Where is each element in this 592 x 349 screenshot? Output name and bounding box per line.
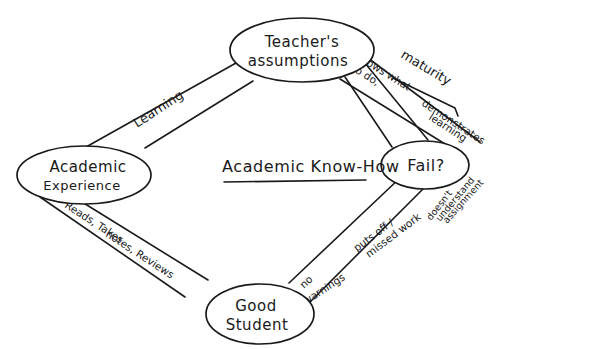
concept-map: Learning maturity knows what to do, demo… [0, 0, 592, 349]
diagram-title-group: Academic Know-How [222, 157, 400, 182]
node-teachers-assumptions-line2: assumptions [248, 52, 349, 70]
node-fail-label: Fail? [407, 156, 444, 175]
node-good-student-line1: Good [235, 297, 277, 315]
node-academic-experience: Academic Experience [17, 146, 151, 204]
node-teachers-assumptions: Teacher's assumptions [230, 18, 374, 82]
band-label-no: no [297, 273, 315, 291]
title-underline [224, 180, 366, 182]
node-academic-experience-line2: Experience [43, 178, 121, 193]
band-no-warnings: no warnings puts off / missed work doesn… [289, 175, 486, 313]
node-teachers-assumptions-line1: Teacher's [264, 33, 340, 51]
band-label-learning: Learning [130, 87, 186, 130]
node-good-student: Good Student [206, 284, 314, 344]
diagram-title: Academic Know-How [222, 157, 400, 176]
node-academic-experience-line1: Academic [49, 158, 126, 176]
band-learning: Learning [86, 63, 253, 148]
band-reads: Reads, Takes notes, Reviews [40, 197, 208, 297]
node-good-student-line2: Student [226, 316, 289, 334]
